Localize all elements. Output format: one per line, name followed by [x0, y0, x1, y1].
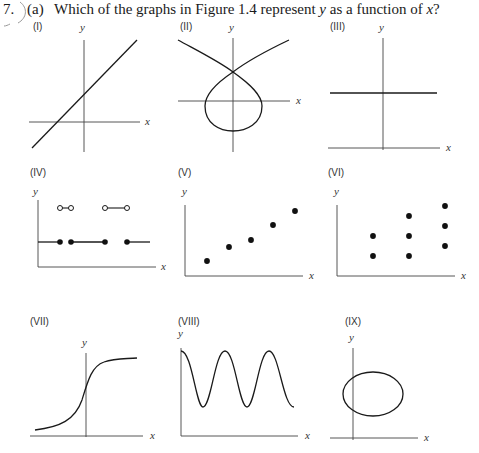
panel-IX: [330, 348, 418, 440]
panel-VI: [337, 203, 455, 276]
panel-III: [328, 38, 440, 150]
axis-y-VI: y: [333, 185, 339, 197]
panel-VIII: [181, 348, 298, 436]
panel-VII: [30, 353, 143, 437]
axis-y-IV: y: [32, 185, 38, 197]
panel-label-III: (III): [330, 21, 345, 32]
axis-y-I: y: [79, 21, 85, 33]
panel-V: [185, 205, 303, 276]
axis-y-V: y: [181, 185, 187, 197]
axis-x-VI: x: [460, 269, 466, 281]
panel-II: [178, 38, 290, 152]
axis-x-IX: x: [423, 431, 429, 443]
axis-y-IX: y: [348, 331, 354, 343]
panel-label-I: (I): [33, 21, 42, 32]
figure-1-4: (I) (II) (III) (IV) (V) (VI) (VII) (VIII…: [0, 0, 479, 453]
axis-x-I: x: [144, 115, 150, 127]
panel-IV: [38, 200, 156, 267]
panel-label-IV: (IV): [30, 167, 46, 178]
panel-label-VI: (VI): [328, 167, 344, 178]
axis-y-VII: y: [81, 336, 87, 348]
panel-label-VII: (VII): [30, 316, 49, 327]
axis-x-VII: x: [149, 429, 155, 441]
panel-label-IX: (IX): [345, 316, 361, 327]
panel-label-V: (V): [178, 167, 191, 178]
axis-x-IV: x: [160, 260, 166, 272]
axis-x-III: x: [445, 141, 451, 153]
axis-y-III: y: [378, 21, 384, 33]
axis-y-VIII: y: [177, 327, 183, 339]
axis-x-V: x: [308, 269, 314, 281]
axis-y-II: y: [228, 21, 234, 33]
panel-I: [29, 40, 140, 152]
panel-label-VIII: (VIII): [178, 316, 200, 327]
panel-label-II: (II): [180, 21, 192, 32]
axis-x-VIII: x: [304, 429, 310, 441]
axis-x-II: x: [295, 94, 301, 106]
